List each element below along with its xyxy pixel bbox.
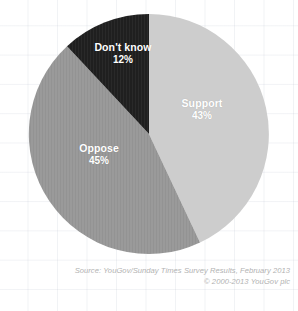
slice-label-text: Oppose: [57, 142, 141, 155]
copyright-notice: © 2000-2013 YouGov plc: [0, 276, 290, 287]
chart-canvas: Don't know 12% Support 43% Oppose 45% So…: [0, 0, 298, 311]
slice-value-text: 43%: [163, 110, 241, 122]
pie-slice-label-support: Support 43%: [163, 97, 241, 122]
chart-footer: Source: YouGov/Sunday Times Survey Resul…: [0, 265, 290, 287]
pie-slice-label-dont-know: Don't know 12%: [73, 41, 173, 66]
slice-label-text: Don't know: [73, 41, 173, 54]
slice-value-text: 12%: [73, 54, 173, 66]
source-attribution: Source: YouGov/Sunday Times Survey Resul…: [0, 265, 290, 276]
slice-label-text: Support: [163, 97, 241, 110]
slice-value-text: 45%: [57, 155, 141, 167]
pie-slice-label-oppose: Oppose 45%: [57, 142, 141, 167]
